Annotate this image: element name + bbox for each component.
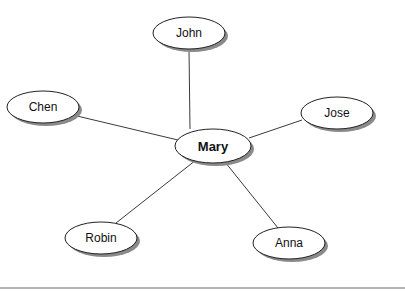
node-label: Anna — [275, 236, 303, 250]
node-label: John — [176, 26, 202, 40]
node-mary[interactable]: Mary — [175, 129, 254, 166]
node-anna[interactable]: Anna — [253, 227, 328, 262]
node-label: Robin — [85, 231, 116, 245]
node-robin[interactable]: Robin — [65, 222, 140, 257]
node-label: Jose — [324, 106, 350, 120]
node-jose[interactable]: Jose — [301, 97, 376, 132]
node-label: Chen — [29, 100, 58, 114]
edge-mary-robin — [116, 160, 196, 223]
node-label: Mary — [198, 139, 229, 154]
node-chen[interactable]: Chen — [7, 91, 82, 126]
edge-mary-chen — [77, 116, 178, 140]
network-diagram: John Chen Jose Robin Anna Mary — [0, 0, 405, 292]
edge-mary-anna — [225, 162, 278, 228]
edge-mary-jose — [249, 120, 302, 138]
edge-mary-john — [189, 49, 190, 129]
node-john[interactable]: John — [153, 17, 228, 52]
